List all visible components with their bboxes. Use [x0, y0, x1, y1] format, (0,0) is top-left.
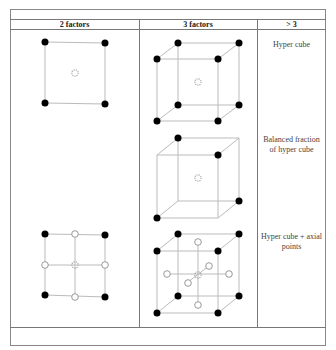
cube-design — [157, 43, 239, 121]
square-axial-design — [45, 234, 105, 297]
square-design — [45, 42, 105, 104]
fraction-cube-design — [157, 138, 239, 218]
cube-points — [154, 40, 243, 125]
design-diagrams — [0, 0, 336, 350]
center-point-icon — [72, 70, 78, 76]
center-point-icon — [195, 79, 201, 85]
center-point-icon — [195, 175, 201, 181]
square-points — [42, 39, 109, 108]
